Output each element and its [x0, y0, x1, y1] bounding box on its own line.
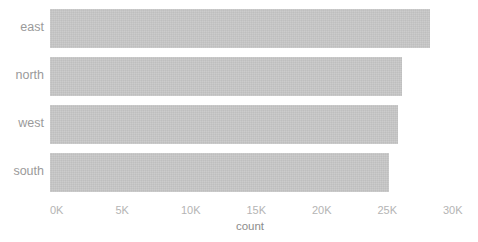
x-tick-label-2: 10K [181, 203, 201, 217]
x-tick-label-3: 15K [247, 203, 267, 217]
bar-south[interactable] [50, 153, 389, 192]
bar-east[interactable] [50, 9, 430, 48]
bar-chart: east north west south 0K 5K 10K 15K 20K … [0, 0, 478, 242]
x-tick-label-6: 30K [443, 203, 463, 217]
y-tick-label-south: south [0, 165, 44, 178]
y-tick-label-east: east [0, 21, 44, 34]
x-axis-title: count [236, 220, 264, 232]
bar-north[interactable] [50, 57, 402, 96]
x-axis-title-wrap: count [0, 219, 478, 233]
x-axis: 0K 5K 10K 15K 20K 25K 30K [50, 203, 478, 219]
plot-area [50, 9, 443, 192]
x-tick-label-5: 25K [378, 203, 398, 217]
y-axis: east north west south [0, 9, 44, 192]
x-tick-label-0: 0K [50, 203, 63, 217]
x-tick-label-1: 5K [116, 203, 129, 217]
y-tick-label-north: north [0, 69, 44, 82]
y-tick-label-west: west [0, 117, 44, 130]
x-tick-label-4: 20K [312, 203, 332, 217]
bar-west[interactable] [50, 105, 398, 144]
